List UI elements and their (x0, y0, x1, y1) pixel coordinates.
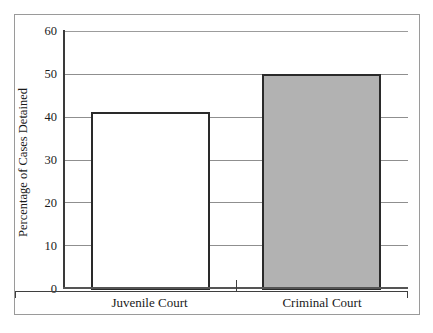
bar-chart-figure: 60 50 40 30 20 10 0 Percentage of Cases … (0, 0, 433, 333)
y-tick-label-20: 20 (45, 197, 58, 210)
y-axis-tick-labels: 60 50 40 30 20 10 0 (26, 0, 57, 333)
gridline-60 (63, 31, 408, 32)
y-axis-line (63, 30, 65, 289)
category-axis-tick-left (15, 291, 16, 298)
y-tick-label-30: 30 (45, 154, 58, 167)
y-tick-label-40: 40 (45, 111, 58, 124)
category-label-criminal-court: Criminal Court (236, 295, 408, 311)
y-tick-label-60: 60 (45, 25, 58, 38)
bar-criminal-court[interactable] (262, 74, 381, 290)
y-tick-label-50: 50 (45, 68, 58, 81)
y-axis-title: Percentage of Cases Detained (16, 43, 31, 283)
y-tick-label-10: 10 (45, 240, 58, 253)
category-label-juvenile-court: Juvenile Court (63, 295, 236, 311)
plot-area (63, 31, 408, 288)
bar-juvenile-court[interactable] (91, 112, 210, 290)
y-tick-label-0: 0 (51, 283, 57, 296)
category-axis-line (15, 291, 408, 292)
category-axis-tick-middle (236, 280, 237, 292)
